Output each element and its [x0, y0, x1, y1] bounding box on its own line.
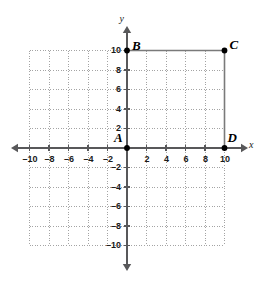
- point-label-c: C: [230, 38, 239, 51]
- x-axis-arrow-left: [11, 144, 18, 152]
- graph-canvas: [0, 0, 259, 284]
- x-axis-tick-label: 4: [164, 155, 169, 164]
- x-axis-tick-label: –8: [44, 155, 54, 164]
- x-axis-tick-label: 6: [183, 155, 188, 164]
- point-marker-b: [124, 48, 130, 54]
- y-axis-arrow-down: [123, 264, 131, 271]
- point-marker-c: [222, 48, 228, 54]
- x-axis-tick-label: –6: [64, 155, 74, 164]
- y-axis-tick-label: 10: [111, 46, 121, 55]
- y-axis-tick-label: 4: [116, 105, 121, 114]
- coordinate-plane-figure: –10–8–6–4–2246810108642–2–4–6–8–10ABCDxy: [0, 0, 259, 284]
- y-axis-tick-label: –4: [111, 183, 121, 192]
- shape-layer: [127, 51, 225, 149]
- point-label-a: A: [114, 131, 123, 144]
- point-marker-layer: [124, 48, 227, 151]
- y-axis-arrow-up: [123, 26, 131, 33]
- y-axis-tick-label: –8: [111, 222, 121, 231]
- y-axis-tick-label: –10: [106, 241, 121, 250]
- y-axis-tick-label: –2: [111, 163, 121, 172]
- point-label-d: D: [228, 131, 237, 144]
- x-axis-arrow-right: [241, 144, 248, 152]
- x-axis-tick-label: 10: [220, 155, 230, 164]
- y-axis-name-label: y: [120, 14, 124, 24]
- y-axis-tick-label: 8: [116, 66, 121, 75]
- x-axis-tick-label: –4: [83, 155, 93, 164]
- x-axis-tick-label: 8: [203, 155, 208, 164]
- y-axis-tick-label: 6: [116, 85, 121, 94]
- y-axis-tick-label: –6: [111, 202, 121, 211]
- x-axis-tick-label: 2: [144, 155, 149, 164]
- point-label-b: B: [132, 39, 141, 52]
- x-axis-tick-label: –10: [22, 155, 37, 164]
- point-marker-d: [222, 145, 228, 151]
- x-axis-name-label: x: [249, 140, 253, 150]
- point-marker-a: [124, 145, 130, 151]
